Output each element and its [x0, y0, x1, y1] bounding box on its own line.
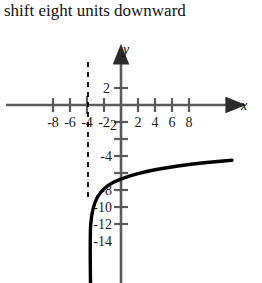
x-tick-label: -4: [81, 115, 93, 130]
x-tick-label: 2: [135, 115, 142, 130]
x-tick-label: -8: [47, 115, 59, 130]
y-tick-label: -14: [93, 234, 112, 249]
y-axis-label: y: [121, 42, 130, 57]
x-tick-label: 6: [169, 115, 176, 130]
x-tick-label: 4: [152, 115, 159, 130]
y-tick-label: -12: [93, 217, 112, 232]
y-tick-label: -2: [105, 118, 117, 133]
x-tick-label: -6: [64, 115, 76, 130]
x-axis: -8 -6 -4 -2 2 4 6 8 x: [6, 96, 248, 130]
graph-figure: -8 -6 -4 -2 2 4 6 8 x 2 -2: [0, 30, 262, 283]
x-tick-label: 8: [186, 115, 193, 130]
x-axis-label: x: [240, 98, 248, 113]
y-tick-label: 2: [103, 81, 110, 96]
y-tick-label: -4: [100, 149, 112, 164]
y-axis: 2 -2 -4 -8 -10 -12 -14 y: [93, 42, 130, 283]
caption-text: shift eight units downward: [4, 0, 262, 22]
